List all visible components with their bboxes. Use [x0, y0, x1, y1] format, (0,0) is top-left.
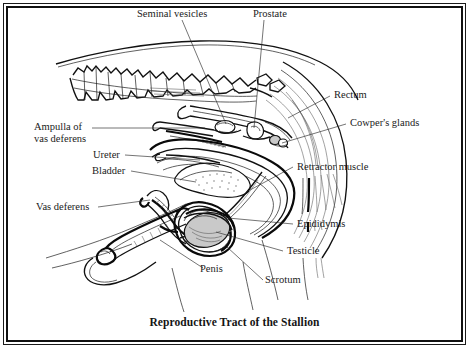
- label-seminal-vesicles: Seminal vesicles: [137, 8, 207, 20]
- cowpers-glands: [270, 136, 289, 148]
- figure-title: Reproductive Tract of the Stallion: [0, 316, 469, 328]
- label-testicle: Testicle: [287, 245, 320, 257]
- seminal-vesicles: [214, 121, 241, 134]
- label-ampulla-of-vas-deferens-line2: vas deferens: [34, 133, 86, 145]
- stallion-reproductive-tract-illustration: [0, 0, 469, 348]
- label-cowpers-glands: Cowper's glands: [350, 117, 419, 129]
- label-ureter: Ureter: [93, 149, 120, 161]
- leader-rectum: [288, 96, 330, 118]
- leader-prostate: [254, 20, 264, 128]
- label-epididymis: Epididymis: [297, 218, 345, 230]
- leader-cowpers-glands: [282, 124, 346, 143]
- label-scrotum: Scrotum: [265, 274, 301, 286]
- leader-scrotum: [227, 247, 263, 280]
- prostate: [243, 122, 270, 139]
- label-ampulla-of-vas-deferens-line1: Ampulla of: [34, 121, 82, 133]
- label-vas-deferens: Vas deferens: [36, 201, 89, 213]
- label-retractor-muscle: Retractor muscle: [297, 161, 368, 173]
- label-rectum: Rectum: [334, 89, 367, 101]
- label-prostate: Prostate: [253, 8, 287, 20]
- label-bladder: Bladder: [92, 165, 125, 177]
- penis: [84, 210, 186, 285]
- label-penis: Penis: [200, 263, 223, 275]
- figure-container: Seminal vesicles Prostate Rectum Cowper'…: [0, 0, 469, 348]
- vertebral-column: [70, 66, 285, 102]
